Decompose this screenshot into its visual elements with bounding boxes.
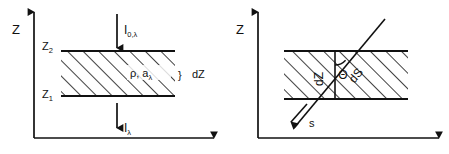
direction-label: s (309, 117, 315, 129)
vertical-axis-label: Z (12, 22, 20, 37)
direction-arrow (291, 104, 307, 122)
outgoing-flux-sub: λ (127, 128, 131, 137)
incoming-flux-label: I0,λ (124, 23, 138, 39)
tick-label-z2-sub: 2 (49, 46, 53, 55)
slab-properties-sub: λ (149, 73, 153, 82)
vertical-segment-label: dZ (312, 72, 326, 86)
panel-normal-incidence: Z Z2 Z1 I0,λ Iλ ρ, aλ } dZ (0, 0, 225, 154)
tick-label-z2: Z2 (42, 40, 53, 55)
tick-label-z1: Z1 (42, 88, 53, 103)
panel-oblique-path: Z dZ Θ dS s (225, 0, 449, 154)
incoming-flux-sub: 0,λ (127, 30, 137, 39)
slab-properties-base: ρ, a (130, 67, 149, 79)
radiative-transfer-diagram: Z Z2 Z1 I0,λ Iλ ρ, aλ } dZ (0, 0, 449, 154)
vertical-axis-label: Z (236, 22, 244, 37)
thickness-brace: } (178, 69, 182, 81)
thickness-label: dZ (192, 68, 205, 80)
tick-label-z1-sub: 1 (49, 94, 53, 103)
outgoing-flux-label: Iλ (124, 121, 131, 137)
